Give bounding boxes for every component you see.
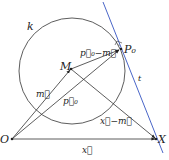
tangent-diagram: k M P₀ O X t p⃗₀−m⃗ m⃗ p⃗₀ x⃗−m⃗ x⃗ [0,0,169,160]
label-vec-m: m⃗ [36,89,50,99]
label-vec-p0-minus-m: p⃗₀−m⃗ [80,48,116,58]
label-vec-x: x⃗ [82,145,92,155]
label-vec-x-minus-m: x⃗−m⃗ [100,116,132,126]
right-angle-dot [118,44,119,45]
label-x-point: X [157,133,167,146]
circle-k [19,18,125,124]
label-m-point: M [59,60,72,73]
label-vec-p0: p⃗₀ [63,96,78,106]
point-p0 [120,48,123,51]
label-t: t [138,74,142,83]
tangent-line-t [103,2,163,153]
label-o: O [0,133,9,146]
label-p0: P₀ [123,43,136,56]
vector-x-minus-m [71,69,155,138]
point-o [11,138,14,141]
label-k: k [27,20,34,33]
point-x [155,138,158,141]
vector-m [12,70,70,139]
